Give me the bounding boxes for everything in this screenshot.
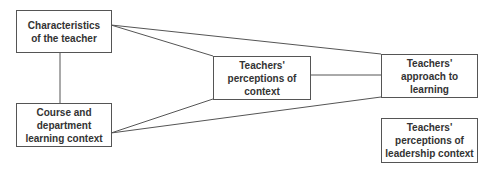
node-perceptions-of-leadership: Teachers' perceptions of leadership cont…: [381, 118, 478, 163]
diagram-canvas: Characteristics of the teacher Course an…: [0, 0, 492, 172]
node-label: Teachers' perceptions of context: [228, 59, 297, 98]
node-characteristics-of-teacher: Characteristics of the teacher: [16, 10, 112, 53]
node-label: Teachers' perceptions of leadership cont…: [385, 121, 473, 160]
node-label: Teachers' approach to learning: [401, 57, 458, 96]
node-label: Characteristics of the teacher: [28, 19, 100, 45]
edge-teacher-perceptions: [111, 25, 213, 56]
edge-teacher-approach: [111, 25, 381, 54]
node-course-department-context: Course and department learning context: [16, 103, 112, 147]
node-approach-to-learning: Teachers' approach to learning: [381, 54, 478, 98]
edge-course-approach: [111, 97, 381, 133]
node-perceptions-of-context: Teachers' perceptions of context: [213, 56, 311, 100]
node-label: Course and department learning context: [25, 106, 102, 145]
edge-course-perceptions: [111, 99, 213, 133]
